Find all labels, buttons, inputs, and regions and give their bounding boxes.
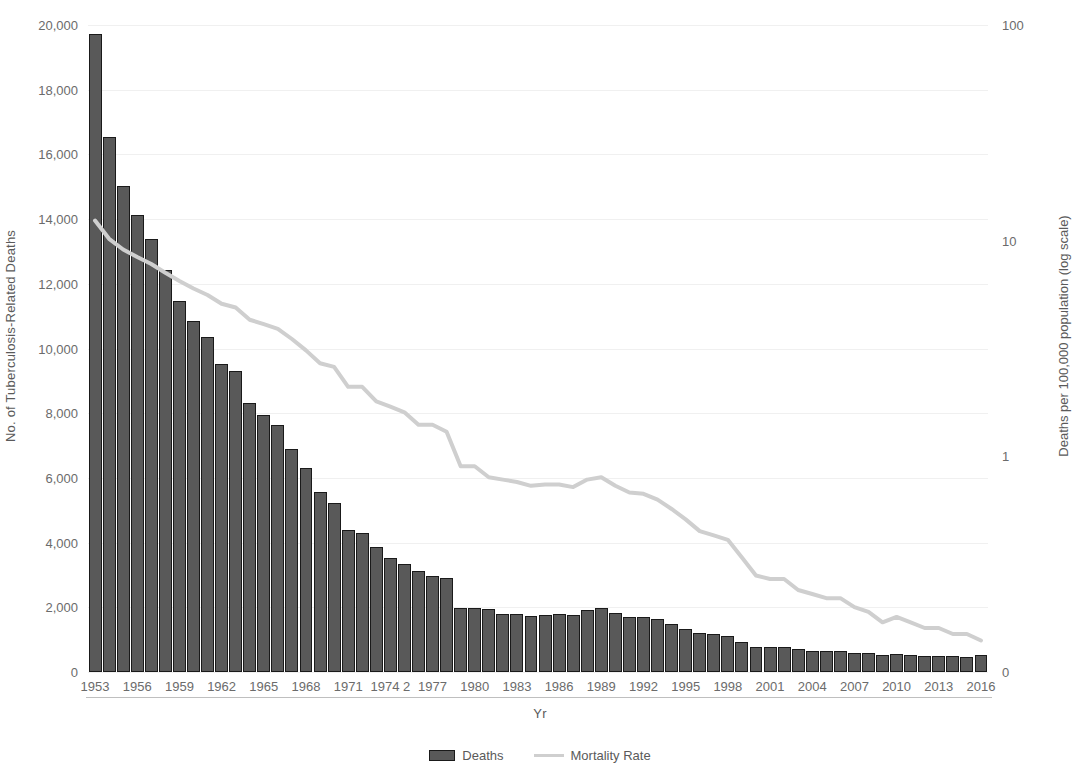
bar	[848, 653, 861, 672]
bar	[426, 576, 439, 672]
bar	[806, 651, 819, 672]
x-axis-tick-label: 2010	[882, 679, 911, 694]
bar	[623, 617, 636, 672]
bar	[173, 301, 186, 672]
y-axis-left-tick-label: 2,000	[45, 600, 78, 615]
x-axis-tick-label: 2013	[924, 679, 953, 694]
bar	[285, 449, 298, 672]
bar	[117, 186, 130, 672]
bar	[89, 34, 102, 672]
bar	[735, 642, 748, 672]
y-axis-right-tick-label: 1	[1002, 449, 1009, 464]
y-axis-left-ticks: 02,0004,0006,0008,00010,00012,00014,0001…	[0, 0, 78, 700]
bar	[637, 617, 650, 672]
y-axis-right-title: Deaths per 100,000 population (log scale…	[1056, 215, 1071, 456]
legend-label-deaths: Deaths	[462, 748, 503, 763]
x-axis-tick-label: 2001	[756, 679, 785, 694]
bar	[862, 653, 875, 672]
x-axis-title: Yr	[0, 706, 1080, 721]
y-axis-right-tick-label: 0	[1002, 665, 1009, 680]
bar	[243, 403, 256, 672]
y-axis-left-tick-label: 12,000	[38, 276, 78, 291]
bar	[215, 364, 228, 672]
line-swatch-icon	[534, 754, 564, 757]
chart-canvas: No. of Tuberculosis-Related Deaths Death…	[0, 0, 1080, 781]
gridline	[88, 284, 988, 285]
bar	[792, 649, 805, 672]
bar	[271, 425, 284, 672]
bar	[300, 468, 313, 672]
x-axis-tick-label: 1959	[165, 679, 194, 694]
y-axis-left-tick-label: 4,000	[45, 535, 78, 550]
x-axis-tick-label: 1992	[629, 679, 658, 694]
y-axis-left-tick-label: 10,000	[38, 341, 78, 356]
y-axis-right-tick-label: 10	[1002, 233, 1016, 248]
bar	[103, 137, 116, 672]
x-axis-tick-label: 1965	[249, 679, 278, 694]
bar	[468, 608, 481, 672]
x-axis-tick-label: 1989	[587, 679, 616, 694]
bar	[398, 564, 411, 672]
bar	[750, 647, 763, 672]
bar	[778, 647, 791, 672]
gridline	[88, 219, 988, 220]
gridline	[88, 349, 988, 350]
x-axis-tick-label: 1983	[502, 679, 531, 694]
gridline	[88, 154, 988, 155]
bar	[525, 616, 538, 672]
x-axis-tick-label: 1995	[671, 679, 700, 694]
bar	[609, 613, 622, 672]
x-axis-tick-label: 1962	[207, 679, 236, 694]
bar	[328, 503, 341, 672]
y-axis-right-ticks: 0110100	[1002, 0, 1046, 700]
bar	[595, 608, 608, 672]
x-axis-tick-label: 1971	[334, 679, 363, 694]
x-axis-tick-label: 1974 2	[370, 679, 410, 694]
bar	[946, 656, 959, 672]
bar	[145, 239, 158, 672]
bar	[721, 636, 734, 672]
legend-item-deaths[interactable]: Deaths	[429, 748, 503, 763]
x-axis-tick-label: 1968	[292, 679, 321, 694]
bar	[567, 615, 580, 672]
y-axis-right-tick-label: 100	[1002, 18, 1024, 33]
bar	[131, 215, 144, 672]
bar	[581, 610, 594, 672]
bar	[975, 655, 988, 672]
bar	[370, 547, 383, 672]
bar-swatch-icon	[429, 750, 455, 761]
y-axis-left-tick-label: 14,000	[38, 212, 78, 227]
bar	[665, 624, 678, 672]
bar	[201, 337, 214, 672]
bar	[539, 615, 552, 672]
gridline	[88, 25, 988, 26]
bar	[679, 629, 692, 672]
bar	[482, 609, 495, 672]
bar	[820, 651, 833, 672]
bar	[496, 614, 509, 672]
chart-legend: Deaths Mortality Rate	[0, 748, 1080, 763]
gridline	[88, 672, 988, 673]
y-axis-left-tick-label: 6,000	[45, 470, 78, 485]
bar	[159, 270, 172, 672]
bar	[693, 633, 706, 672]
legend-item-mortality-rate[interactable]: Mortality Rate	[534, 748, 651, 763]
bar	[440, 578, 453, 672]
bar	[510, 614, 523, 672]
bar	[707, 634, 720, 672]
bar	[412, 571, 425, 672]
x-axis-tick-label: 2007	[840, 679, 869, 694]
x-axis-baseline	[86, 697, 992, 698]
bar	[553, 614, 566, 672]
y-axis-left-tick-label: 20,000	[38, 18, 78, 33]
x-axis-tick-label: 2016	[967, 679, 996, 694]
bar	[764, 647, 777, 672]
bar	[356, 533, 369, 672]
bar	[876, 655, 889, 672]
bar	[187, 321, 200, 673]
x-axis-tick-label: 1977	[418, 679, 447, 694]
bar	[932, 656, 945, 672]
y-axis-left-tick-label: 0	[71, 665, 78, 680]
x-axis-tick-label: 2004	[798, 679, 827, 694]
bar	[904, 655, 917, 672]
